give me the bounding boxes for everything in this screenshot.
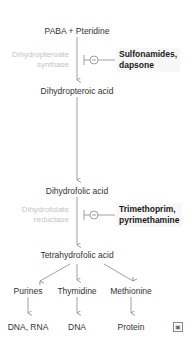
node-dna-rna: DNA, RNA [8,322,49,332]
node-protein: Protein [118,322,145,332]
image-icon[interactable]: ▣ [173,322,183,332]
enzyme-label-line1: Dihydrofolate [22,205,69,215]
node-purines: Purines [14,286,43,296]
node-dna: DNA [68,322,86,332]
drug-label-line1: Trimethoprim, [119,204,179,215]
node-thymidine: Thymidine [57,286,96,296]
enzyme-label-line1: Dihydropteroate [12,50,69,60]
drug-label-line1: Sulfonamides, [119,49,177,60]
enzyme-dihydropteroate-synthase: Dihydropteroate synthase [12,50,69,70]
node-methionine: Methionine [110,286,152,296]
enzyme-dihydrofolate-reductase: Dihydrofolate reductase [22,205,69,225]
drug-sulfonamides-dapsone: Sulfonamides, dapsone [116,48,180,72]
enzyme-label-line2: synthase [12,60,69,70]
enzyme-label-line2: reductase [22,215,69,225]
node-dihydropteroic-acid: Dihydropteroic acid [41,86,114,96]
drug-label-line2: pyrimethamine [119,215,179,226]
drug-trimethoprim-pyrimethamine: Trimethoprim, pyrimethamine [116,203,182,227]
node-dihydrofolic-acid: Dihydrofolic acid [46,186,108,196]
node-paba-pteridine: PABA + Pteridine [45,26,110,36]
node-tetrahydrofolic-acid: Tetrahydrofolic acid [40,250,113,260]
drug-label-line2: dapsone [119,60,177,71]
